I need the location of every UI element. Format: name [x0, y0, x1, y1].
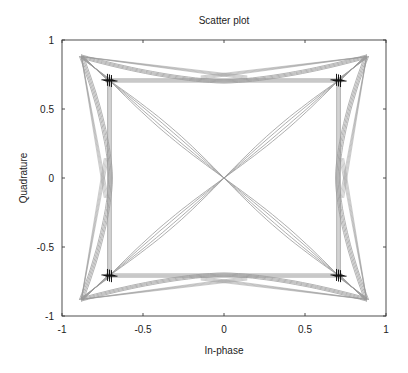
x-tick-label: 0	[221, 324, 227, 335]
trajectory-path	[81, 57, 366, 82]
y-tick-label: -0.5	[37, 242, 55, 253]
scatter-chart: Scatter plot -1-0.500.51 -1-0.500.51 In-…	[0, 0, 408, 373]
x-tick-label: -1	[58, 324, 67, 335]
trajectory-lines	[80, 55, 369, 301]
y-tick-label: 0.5	[40, 104, 54, 115]
x-axis-label: In-phase	[205, 345, 244, 356]
x-tick-label: -0.5	[134, 324, 152, 335]
trajectory-path	[82, 57, 111, 300]
trajectory-path	[110, 80, 339, 275]
y-tick-label: 1	[48, 35, 54, 46]
trajectory-path	[337, 57, 366, 300]
y-axis-label: Quadrature	[18, 152, 29, 203]
x-tick-label: 0.5	[298, 324, 312, 335]
trajectory-path	[338, 57, 367, 300]
chart-title: Scatter plot	[199, 15, 250, 26]
x-tick-label: 1	[383, 324, 389, 335]
y-tick-labels: -1-0.500.51	[37, 35, 55, 322]
trajectory-path	[81, 274, 366, 299]
y-tick-label: -1	[45, 311, 54, 322]
y-tick-label: 0	[48, 173, 54, 184]
trajectory-path	[81, 57, 110, 300]
x-tick-labels: -1-0.500.51	[58, 324, 390, 335]
